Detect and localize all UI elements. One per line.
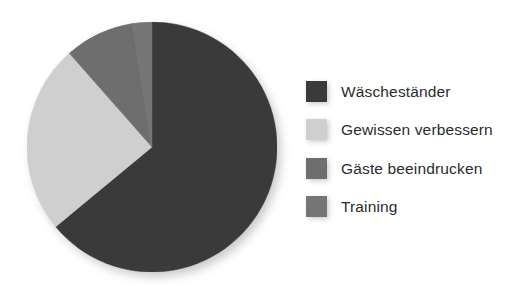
legend-swatch-gaeste-beeindrucken: [306, 158, 327, 179]
legend-swatch-gewissen-verbessern: [306, 119, 327, 140]
legend-label-waeschestaender: Wäscheständer: [341, 83, 451, 100]
legend-label-gewissen-verbessern: Gewissen verbessern: [341, 121, 493, 138]
legend-item-waeschestaender[interactable]: Wäscheständer: [306, 72, 511, 111]
legend-swatch-waeschestaender: [306, 81, 327, 102]
legend-swatch-box: [306, 81, 327, 102]
legend-label-gaeste-beeindrucken: Gäste beeindrucken: [341, 160, 482, 177]
pie-chart-page: Wäscheständer Gewissen verbessern Gäste …: [0, 0, 517, 300]
legend-item-gewissen-verbessern[interactable]: Gewissen verbessern: [306, 111, 511, 150]
legend-swatch-box: [306, 119, 327, 140]
legend-swatch-training: [306, 196, 327, 217]
legend-swatch-box: [306, 158, 327, 179]
chart-legend: Wäscheständer Gewissen verbessern Gäste …: [306, 72, 511, 226]
pie-chart-figure: [27, 22, 277, 272]
legend-label-training: Training: [341, 198, 398, 215]
legend-item-training[interactable]: Training: [306, 188, 511, 227]
legend-swatch-box: [306, 196, 327, 217]
legend-item-gaeste-beeindrucken[interactable]: Gäste beeindrucken: [306, 149, 511, 188]
pie-slices-svg: [27, 22, 277, 272]
pie-slice-group: [27, 22, 277, 272]
